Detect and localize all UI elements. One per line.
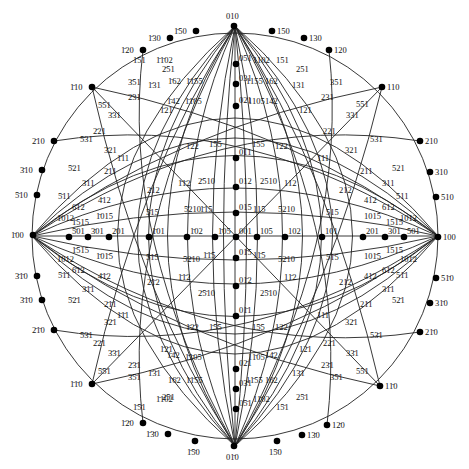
pole-label: 2̄10	[32, 136, 45, 146]
zone-intersection-label: 212	[339, 185, 352, 195]
pole-label: 510	[441, 192, 454, 202]
zone-intersection-label: 1̄6̄2	[168, 375, 181, 385]
pole-label: 1̄1̄0	[70, 379, 82, 389]
pole-label: 21̄0	[425, 327, 438, 337]
zone-intersection-label: 1̄5̄1	[133, 402, 146, 412]
zone-intersection-label: 2̄1̄1	[104, 299, 116, 309]
zone-intersection-label: 1̄1̄2	[178, 272, 190, 282]
zone-intersection-label: 551	[356, 99, 369, 109]
zone-intersection-label: 142	[265, 96, 278, 106]
pole-label: 01̄1	[239, 305, 251, 315]
zone-intersection-label: 351	[330, 77, 343, 87]
zone-intersection-label: 1̄1̄02	[156, 394, 173, 404]
pole-label: 051	[239, 53, 252, 63]
zone-intersection-label: 5210	[278, 204, 295, 214]
zone-intersection-label: 1̄012	[57, 254, 74, 264]
zone-intersection-label: 251	[296, 64, 309, 74]
zone-intersection-label: 25̄1	[296, 392, 309, 402]
pole-label: 05̄1	[239, 398, 252, 408]
zone-intersection-label: 11̄05	[248, 352, 265, 362]
zone-intersection-label: 1̄21	[160, 105, 173, 115]
zone-intersection-label: 1155	[246, 76, 263, 86]
zone-intersection-label: 1̄2̄2	[186, 322, 199, 332]
pole-label: 015	[239, 202, 252, 212]
zone-intersection-label: 1̄31	[148, 80, 161, 90]
zone-intersection-label: 6̄1̄2	[72, 265, 85, 275]
zone-intersection-label: 2̄3̄1	[128, 360, 141, 370]
zone-intersection-label: 12̄2	[275, 322, 288, 332]
pole-label: 01̄0	[226, 452, 239, 462]
zone-intersection-label: 1̄1̄2	[178, 178, 190, 188]
zone-intersection-label: 101̄5	[364, 251, 381, 261]
zone-intersection-label: 111	[317, 153, 329, 163]
pole-label: 51̄0	[441, 273, 454, 283]
pole-label: 1̄3̄0	[146, 429, 159, 439]
zone-intersection-label: 1̄62	[168, 76, 181, 86]
pole-marker	[433, 275, 440, 282]
zone-intersection-label: 5̄51	[98, 100, 111, 110]
pole-marker	[427, 169, 434, 176]
zone-intersection-label: 53̄1	[370, 330, 383, 340]
pole-label: 15̄0	[269, 447, 282, 457]
zone-intersection-label: 115	[253, 204, 265, 214]
zone-intersection-label: 1̄11	[117, 153, 129, 163]
zone-intersection-label: 4̄12	[98, 195, 111, 205]
zone-intersection-label: 1̄3̄1	[148, 368, 161, 378]
pole-label: 110	[387, 82, 399, 92]
zone-intersection-label: 5̄21	[68, 163, 81, 173]
zone-intersection-label: 51̄5	[326, 252, 339, 262]
zone-intersection-label: 3̄2̄1	[104, 317, 117, 327]
zone-intersection-label: 5̄5̄1	[98, 366, 111, 376]
zone-intersection-label: 11̄02	[253, 394, 270, 404]
pole-marker	[379, 84, 386, 91]
pole-label: 01̄2	[239, 275, 252, 285]
pole-label: 201	[366, 226, 379, 236]
zone-intersection-label: 151	[276, 55, 289, 65]
pole-label: 1̄50	[174, 26, 187, 36]
zone-intersection-label: 5̄31	[80, 134, 93, 144]
pole-marker	[51, 327, 58, 334]
zone-intersection-label: 3̄1̄1	[82, 284, 94, 294]
pole-label: 31̄0	[435, 298, 448, 308]
pole-label: 3̄10	[20, 165, 33, 175]
pole-label: 1̄2̄0	[121, 418, 134, 428]
zone-intersection-label: 5̄1̄1	[58, 270, 70, 280]
zone-intersection-label: 1̄1̄55	[186, 375, 203, 385]
zone-intersection-label: 6̄12	[72, 202, 85, 212]
pole-label: 012	[239, 176, 252, 186]
pole-label: 101	[325, 226, 338, 236]
zone-intersection-label: 2̄12	[147, 185, 160, 195]
pole-marker	[427, 300, 434, 307]
pole-marker	[377, 383, 384, 390]
pole-marker	[39, 297, 46, 304]
zone-intersection-label: 1̄55	[209, 139, 222, 149]
zone-intersection-label: 311	[382, 178, 394, 188]
zone-intersection-label: 31̄1	[382, 284, 394, 294]
zone-intersection-label: 3̄5̄1	[128, 372, 141, 382]
zone-intersection-label: 21̄2	[339, 277, 352, 287]
zone-intersection-label: 1515	[386, 217, 403, 227]
pole-marker	[165, 431, 172, 438]
zone-intersection-label: 112	[284, 178, 296, 188]
zone-intersection-label: 1̄515	[72, 245, 89, 255]
zone-intersection-label: 2̄11	[104, 166, 116, 176]
pole-label: 2̄1̄0	[32, 325, 45, 335]
zone-intersection-label: 11̄2	[284, 272, 296, 282]
pole-marker	[269, 28, 276, 35]
zone-intersection-label: 5̄15	[146, 207, 159, 217]
zone-intersection-label: 41̄2	[364, 271, 377, 281]
zone-intersection-label: 61̄2	[382, 265, 395, 275]
zone-intersection-label: 3̄3̄1	[108, 348, 121, 358]
pole-marker	[324, 422, 331, 429]
zone-intersection-label: 5̄3̄1	[80, 330, 93, 340]
zone-intersection-label: 52̄1	[392, 295, 405, 305]
pole-marker	[326, 47, 333, 54]
zone-intersection-label: 1̄1̄55	[186, 76, 203, 86]
zone-intersection-label: 3̄31	[108, 110, 121, 120]
zone-intersection-label: 1̄1̄05	[185, 352, 202, 362]
zone-intersection-label: 1015	[364, 211, 381, 221]
pole-marker	[192, 438, 199, 445]
pole-marker	[34, 273, 41, 280]
pole-marker	[417, 329, 424, 336]
zone-intersection-label: 2̄1̄2	[147, 277, 160, 287]
